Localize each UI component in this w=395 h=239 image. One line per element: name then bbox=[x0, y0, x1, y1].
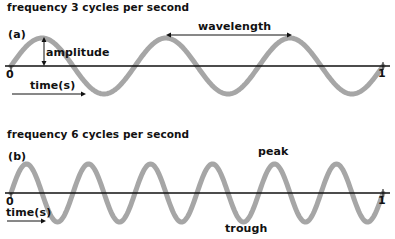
time-label-a: time(s) bbox=[30, 79, 75, 92]
trough-label: trough bbox=[225, 222, 267, 235]
wavelength-arrow bbox=[166, 33, 292, 38]
time-arrow-b bbox=[7, 219, 46, 224]
axis-a-end: 1 bbox=[378, 67, 386, 80]
amplitude-label: amplitude bbox=[46, 46, 110, 59]
time-label-b: time(s) bbox=[6, 206, 51, 219]
wave-diagram bbox=[0, 0, 395, 239]
title-b: frequency 6 cycles per second bbox=[7, 128, 189, 140]
title-a: frequency 3 cycles per second bbox=[7, 1, 189, 13]
time-arrow-a bbox=[12, 92, 86, 97]
peak-label: peak bbox=[258, 145, 288, 158]
axis-a-start: 0 bbox=[6, 68, 14, 81]
axis-b-end: 1 bbox=[378, 194, 386, 207]
tag-b: (b) bbox=[8, 150, 26, 163]
tag-a: (a) bbox=[8, 28, 26, 41]
wavelength-label: wavelength bbox=[198, 20, 271, 33]
